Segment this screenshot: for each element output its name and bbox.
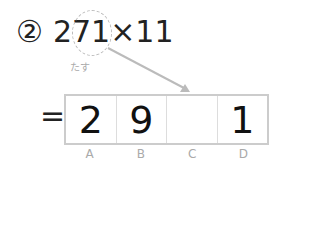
answer-cell-a[interactable]: 2 — [66, 96, 117, 143]
answer-cell-b[interactable]: 9 — [117, 96, 168, 143]
cell-label-c: C — [167, 147, 218, 161]
equals-sign: = — [40, 98, 65, 134]
cell-label-d: D — [218, 147, 269, 161]
cell-label-a: A — [64, 147, 115, 161]
cell-label-b: B — [115, 147, 166, 161]
cell-labels: A B C D — [64, 147, 269, 161]
answer-box: 2 9 1 — [64, 94, 269, 145]
answer-cell-d[interactable]: 1 — [218, 96, 268, 143]
answer-cell-c[interactable] — [167, 96, 218, 143]
